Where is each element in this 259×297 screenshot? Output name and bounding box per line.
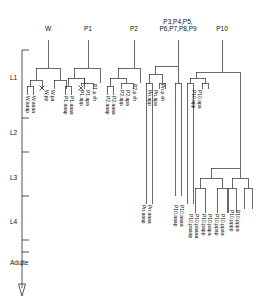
leaf-label: Pn.apa <box>153 90 158 106</box>
top-label-P2: P2 <box>119 25 149 32</box>
leaf-label: W.pp <box>44 90 49 101</box>
leaf-label: P2.p.vh <box>132 84 137 101</box>
lineage-figure: W P1 P2 P3,P4,P5, P6,P7,P8,P9 P10 L1 L2 … <box>0 0 259 297</box>
lineage-P10 <box>187 40 252 213</box>
leaf-label: P10.app <box>191 90 196 109</box>
leaf-label: P10.apa <box>197 90 202 109</box>
leaf-label: Pn.aaaa <box>147 205 152 224</box>
leaf-label: W.pa <box>50 90 55 101</box>
stage-label-L2: L2 <box>10 129 17 136</box>
top-label-P3-P9: P3,P4,P5, P6,P7,P8,P9 <box>146 18 210 32</box>
leaf-label: P10.aaap <box>173 205 178 226</box>
leaf-label: P10.papa <box>207 214 212 235</box>
leaf-label: P2.app <box>119 90 124 106</box>
leaf-label: P10.pppp <box>229 210 234 231</box>
leaf-label: P1.aaap <box>63 96 68 115</box>
lineage-W <box>27 40 66 95</box>
leaf-label: P10.ppaa <box>220 214 225 235</box>
leaf-label: P2.aaaa <box>111 96 116 115</box>
leaf-label: Pn.p.vh <box>160 84 165 101</box>
leaf-label: P10.ppap <box>214 214 219 235</box>
top-label-W: W <box>33 25 63 32</box>
leaf-label: W.aaaa <box>31 96 36 113</box>
leaf-label: P2.aaap <box>105 96 110 115</box>
leaf-label: P1.app <box>79 90 84 106</box>
top-label-P10: P10 <box>207 25 237 32</box>
leaf-label: P10.paaaa <box>194 214 199 238</box>
leaf-label: Pn.aaap <box>141 205 146 224</box>
leaf-label: P1.aaaa <box>69 96 74 115</box>
leaf-label: W.aaap <box>25 96 30 113</box>
lineage-Pn <box>146 40 181 204</box>
leaf-label: P10.aaaa <box>179 205 184 226</box>
leaf-label: P1.apa <box>85 90 90 106</box>
leaf-label: P10.paaap <box>188 214 193 238</box>
top-label-P1: P1 <box>73 25 103 32</box>
stage-label-L3: L3 <box>10 174 17 181</box>
stage-label-adulte: Adulte <box>10 259 28 266</box>
stage-label-L4: L4 <box>10 218 17 225</box>
stage-label-L1: L1 <box>10 74 17 81</box>
leaf-label: P2.apa <box>125 90 130 106</box>
lineage-tree-svg <box>0 0 259 297</box>
leaf-label: P10.papp <box>201 214 206 235</box>
leaf-label: P1.p.vh <box>92 84 97 101</box>
leaf-label: Pn.app <box>147 90 152 106</box>
leaf-label: P10.pppa <box>235 210 240 231</box>
